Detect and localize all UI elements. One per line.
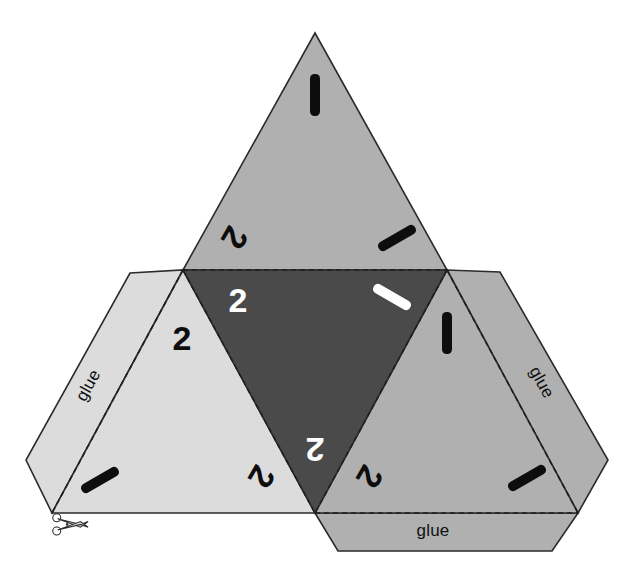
glue-flap-bottom: glue bbox=[315, 513, 578, 551]
digit-two: 2 bbox=[306, 431, 325, 469]
digit-two: 2 bbox=[229, 281, 248, 319]
left-triangle-mark-2: 2 bbox=[173, 319, 192, 357]
right-triangle-mark-1 bbox=[442, 312, 452, 354]
pip-bar-one bbox=[310, 74, 320, 116]
pip-bar-one bbox=[442, 312, 452, 354]
glue-flap-bottom-label: glue bbox=[417, 521, 450, 540]
top-triangle-mark-1 bbox=[310, 74, 320, 116]
center-triangle-mark-2: 2 bbox=[306, 431, 325, 469]
net-diagram: glue glue glue bbox=[0, 0, 640, 585]
digit-two: 2 bbox=[173, 319, 192, 357]
tetrahedron-net-canvas: glue glue glue bbox=[0, 0, 640, 585]
center-triangle-mark-2: 2 bbox=[229, 281, 248, 319]
scissors-icon bbox=[53, 514, 88, 535]
